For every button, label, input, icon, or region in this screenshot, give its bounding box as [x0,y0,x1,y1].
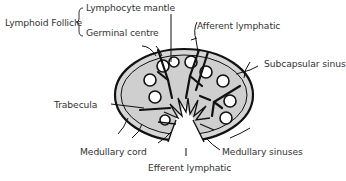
efferent-lymphatic-label: Efferent lymphatic [148,163,231,172]
afferent-lymphatic-label: Afferent lymphatic [197,21,280,30]
medullary-sinuses-label: Medullary sinuses [222,147,303,156]
leader-medullary-sinuses [206,138,220,150]
subcapsular-sinus-label: Subcapsular sinus [264,59,346,68]
medullary-cord-label: Medullary cord [80,147,147,156]
lymphoid-follicle-label: Lymphoid Follicle [5,18,82,27]
lymphocyte-mantle-label: Lymphocyte mantle [86,3,175,12]
trabecula-label: Trabecula [54,100,97,109]
germinal-centre-label: Germinal centre [86,28,159,37]
